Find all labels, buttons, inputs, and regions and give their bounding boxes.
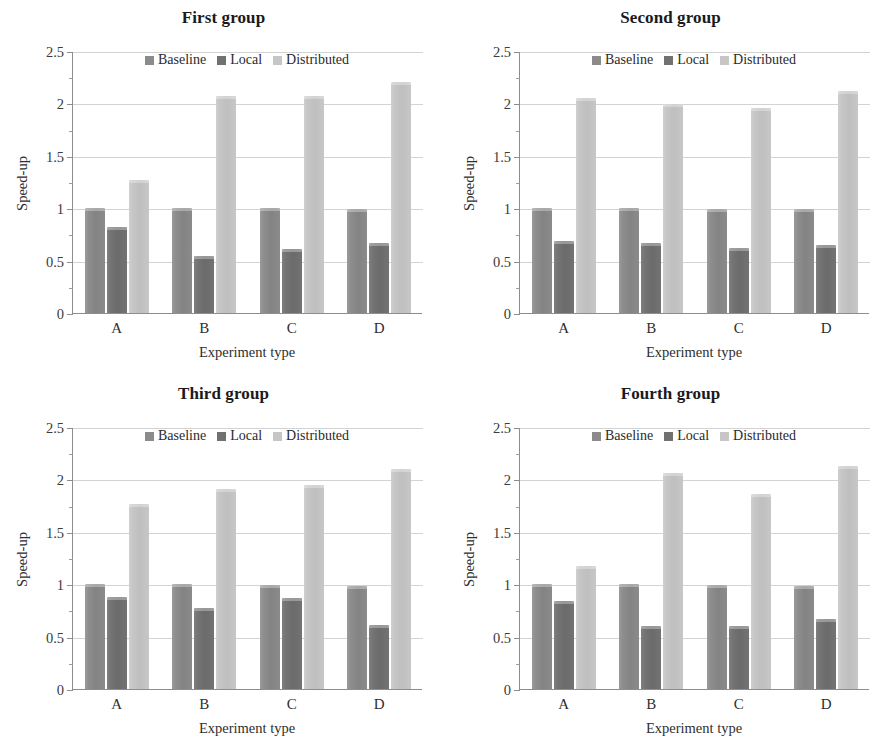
y-axis-label-text: Speed-up xyxy=(14,532,31,587)
bar-highlight xyxy=(129,504,149,507)
y-tick-label: 0.5 xyxy=(493,253,511,270)
legend-item-baseline[interactable]: Baseline xyxy=(592,52,653,68)
x-tick-label: B xyxy=(199,320,209,337)
bar-highlight xyxy=(794,586,814,589)
bar-highlight xyxy=(107,597,127,600)
bar-local-d xyxy=(816,245,836,313)
x-tick-label: C xyxy=(734,696,744,713)
bar-distributed-b xyxy=(216,489,236,689)
bar-group-d: D xyxy=(783,428,871,689)
x-axis-label: Experiment type xyxy=(72,344,422,361)
legend-label: Baseline xyxy=(158,428,206,444)
bar-distributed-b xyxy=(216,96,236,313)
legend-swatch-icon xyxy=(217,432,226,441)
bar-group-d: D xyxy=(336,52,424,313)
y-tick-label: 0 xyxy=(57,306,64,323)
bar-highlight xyxy=(619,208,639,211)
chart-panel-4: Fourth groupSpeed-upExperiment type00.51… xyxy=(447,376,894,752)
y-tick-label: 1 xyxy=(57,577,64,594)
legend-item-distributed[interactable]: Distributed xyxy=(720,52,796,68)
legend-label: Local xyxy=(677,52,709,68)
y-tick-label: 1.5 xyxy=(493,148,511,165)
bar-local-a xyxy=(107,597,127,689)
bar-highlight xyxy=(838,466,858,469)
bar-highlight xyxy=(347,209,367,212)
bar-local-b xyxy=(194,608,214,689)
bar-highlight xyxy=(663,104,683,107)
multi-panel-bar-chart-figure: First groupSpeed-upExperiment type00.511… xyxy=(0,0,894,752)
y-tick-label: 2.5 xyxy=(493,44,511,61)
legend-swatch-icon xyxy=(720,56,729,65)
panel-title: First group xyxy=(0,8,447,28)
legend: BaselineLocalDistributed xyxy=(519,52,869,68)
bar-highlight xyxy=(194,608,214,611)
x-tick-label: C xyxy=(287,320,297,337)
bar-distributed-c xyxy=(304,485,324,689)
bar-highlight xyxy=(172,208,192,211)
bar-baseline-c xyxy=(260,208,280,313)
bar-highlight xyxy=(554,241,574,244)
legend-item-baseline[interactable]: Baseline xyxy=(145,52,206,68)
x-tick-label: C xyxy=(734,320,744,337)
y-tick-label: 1 xyxy=(504,577,511,594)
legend-item-distributed[interactable]: Distributed xyxy=(273,428,349,444)
bar-highlight xyxy=(304,485,324,488)
x-tick-label: A xyxy=(558,320,569,337)
legend-item-local[interactable]: Local xyxy=(664,52,709,68)
bar-highlight xyxy=(107,227,127,230)
bar-highlight xyxy=(838,91,858,94)
bar-highlight xyxy=(391,469,411,472)
legend-label: Local xyxy=(230,428,262,444)
y-tick-label: 1.5 xyxy=(46,524,64,541)
y-tick-label: 2.5 xyxy=(493,420,511,437)
bar-baseline-d xyxy=(794,586,814,689)
bar-highlight xyxy=(641,243,661,246)
legend-swatch-icon xyxy=(145,56,154,65)
bar-highlight xyxy=(282,249,302,252)
x-axis-label: Experiment type xyxy=(519,344,869,361)
bar-local-d xyxy=(816,619,836,689)
legend-swatch-icon xyxy=(592,432,601,441)
bar-distributed-b xyxy=(663,104,683,313)
bar-highlight xyxy=(282,598,302,601)
x-tick-label: D xyxy=(374,320,385,337)
bar-highlight xyxy=(576,98,596,101)
legend-swatch-icon xyxy=(273,432,282,441)
bar-local-a xyxy=(107,227,127,313)
bar-distributed-a xyxy=(129,504,149,689)
bar-highlight xyxy=(554,601,574,604)
bar-baseline-b xyxy=(619,208,639,313)
legend-item-local[interactable]: Local xyxy=(217,52,262,68)
legend: BaselineLocalDistributed xyxy=(519,428,869,444)
bar-local-b xyxy=(641,243,661,313)
bar-highlight xyxy=(369,625,389,628)
legend-item-baseline[interactable]: Baseline xyxy=(145,428,206,444)
bar-baseline-d xyxy=(347,586,367,689)
legend-item-distributed[interactable]: Distributed xyxy=(720,428,796,444)
x-tick-label: D xyxy=(821,696,832,713)
bar-baseline-d xyxy=(347,209,367,313)
y-axis-label-text: Speed-up xyxy=(461,532,478,587)
bar-distributed-a xyxy=(129,180,149,313)
legend-item-local[interactable]: Local xyxy=(217,428,262,444)
legend-label: Distributed xyxy=(733,428,796,444)
legend-item-baseline[interactable]: Baseline xyxy=(592,428,653,444)
y-axis-label: Speed-up xyxy=(459,428,479,690)
bar-highlight xyxy=(172,584,192,587)
legend-item-distributed[interactable]: Distributed xyxy=(273,52,349,68)
bar-distributed-d xyxy=(391,82,411,313)
legend-swatch-icon xyxy=(720,432,729,441)
bar-group-c: C xyxy=(248,428,336,689)
y-tick-label: 1 xyxy=(504,201,511,218)
y-tick-label: 0.5 xyxy=(46,253,64,270)
legend-item-local[interactable]: Local xyxy=(664,428,709,444)
bar-local-a xyxy=(554,601,574,689)
y-tick-label: 0 xyxy=(57,682,64,699)
x-tick-label: A xyxy=(111,696,122,713)
bar-highlight xyxy=(816,245,836,248)
plot-area: 00.511.522.5ABCD xyxy=(519,428,869,690)
bar-highlight xyxy=(794,209,814,212)
y-axis-label: Speed-up xyxy=(12,428,32,690)
legend-swatch-icon xyxy=(217,56,226,65)
bar-group-b: B xyxy=(161,52,249,313)
